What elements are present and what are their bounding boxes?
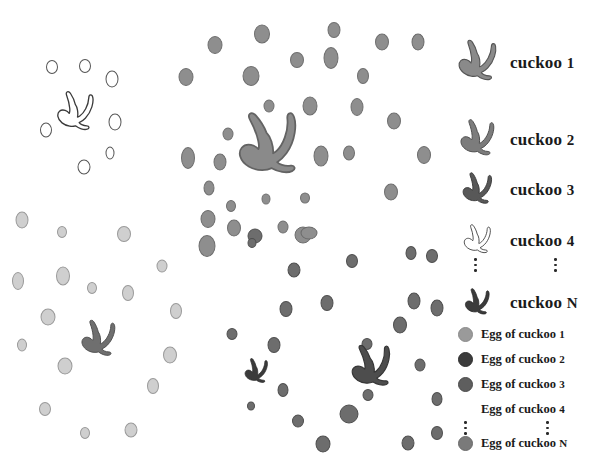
legend-row-egg-2: Egg of cuckoo 2 <box>446 352 611 367</box>
figure-canvas: cuckoo 1 cuckoo 2 cuckoo 3 cuckoo 4 <box>0 0 611 462</box>
legend-row-cuckoo-2: cuckoo 2 <box>446 119 611 160</box>
bird-icon <box>237 358 275 386</box>
egg-swatch-3 <box>458 377 473 392</box>
legend-bird-ellipsis-right <box>554 258 557 272</box>
legend-label-egg-2: Egg of cuckoo 2 <box>481 352 565 367</box>
bird-icon <box>70 320 126 361</box>
egg-marker <box>340 405 359 424</box>
egg-marker <box>278 383 289 397</box>
egg-marker <box>117 226 131 242</box>
egg-marker <box>106 147 115 160</box>
bird-icon <box>446 288 508 318</box>
legend-label-egg-1: Egg of cuckoo 1 <box>481 327 565 342</box>
egg-marker <box>431 426 443 440</box>
egg-marker <box>41 309 56 326</box>
egg-marker <box>248 238 257 248</box>
egg-marker <box>262 194 271 205</box>
egg-marker <box>431 300 444 317</box>
egg-marker <box>415 359 426 372</box>
egg-marker <box>201 210 216 228</box>
egg-swatch-1 <box>458 327 473 342</box>
egg-marker <box>57 226 67 238</box>
egg-marker <box>406 246 417 260</box>
legend-label-egg-4: Egg of cuckoo 4 <box>481 402 565 417</box>
legend-label-egg-n: Egg of cuckoo N <box>481 436 567 451</box>
egg-marker <box>199 235 216 257</box>
egg-marker <box>387 113 401 130</box>
egg-marker <box>375 34 389 51</box>
egg-marker <box>328 22 341 38</box>
egg-marker <box>393 317 407 334</box>
bird-icon <box>446 119 508 160</box>
egg-marker <box>426 249 438 263</box>
egg-marker <box>432 392 443 406</box>
legend-row-egg-4: Egg of cuckoo 4 <box>446 402 611 417</box>
egg-marker <box>39 402 51 416</box>
egg-marker <box>316 436 331 453</box>
egg-marker <box>12 272 24 290</box>
egg-marker <box>402 436 415 451</box>
egg-marker <box>268 337 281 353</box>
egg-marker <box>288 263 301 278</box>
egg-marker <box>324 47 339 69</box>
egg-marker <box>226 200 236 212</box>
egg-swatch-4 <box>458 402 473 417</box>
bird-icon <box>446 172 508 208</box>
egg-marker <box>343 146 355 161</box>
legend-row-cuckoo-1: cuckoo 1 <box>446 30 611 95</box>
egg-marker <box>357 68 369 84</box>
egg-marker <box>170 303 182 319</box>
egg-marker <box>80 427 90 439</box>
egg-marker <box>16 212 29 229</box>
egg-marker <box>163 347 177 364</box>
egg-marker <box>56 267 70 286</box>
egg-marker <box>408 293 421 310</box>
legend-row-cuckoo-4: cuckoo 4 <box>446 224 611 257</box>
egg-marker <box>46 60 58 74</box>
legend-row-cuckoo-3: cuckoo 3 <box>446 172 611 208</box>
legend-row-cuckoo-n: cuckoo N <box>446 288 611 318</box>
egg-marker <box>17 339 27 352</box>
egg-marker <box>106 71 119 88</box>
egg-marker <box>208 36 223 54</box>
egg-marker <box>351 98 364 116</box>
legend-label-cuckoo-3: cuckoo 3 <box>510 180 574 200</box>
egg-marker <box>227 220 241 237</box>
egg-marker <box>292 415 304 428</box>
egg-marker <box>412 34 425 51</box>
legend-label-egg-3: Egg of cuckoo 3 <box>481 377 565 392</box>
legend-label-cuckoo-4: cuckoo 4 <box>510 231 574 251</box>
legend-egg-ellipsis-right <box>546 421 549 435</box>
egg-marker <box>78 160 91 175</box>
egg-marker <box>254 25 270 44</box>
legend-panel: cuckoo 1 cuckoo 2 cuckoo 3 cuckoo 4 <box>446 0 611 462</box>
bird-icon <box>446 30 508 95</box>
egg-marker <box>301 227 318 240</box>
egg-marker <box>204 181 215 196</box>
egg-marker <box>125 423 138 438</box>
egg-marker <box>109 114 122 131</box>
legend-row-egg-3: Egg of cuckoo 3 <box>446 377 611 392</box>
egg-marker <box>346 254 358 268</box>
legend-egg-ellipsis-left <box>464 421 467 435</box>
bird-icon <box>336 340 407 396</box>
egg-marker <box>181 147 195 169</box>
egg-marker <box>300 193 310 204</box>
legend-row-egg-n: Egg of cuckoo N <box>446 436 611 451</box>
legend-label-cuckoo-n: cuckoo N <box>510 293 578 313</box>
egg-marker <box>79 59 91 73</box>
legend-bird-ellipsis-left <box>474 258 477 272</box>
scatter-field <box>0 0 446 462</box>
egg-marker <box>243 66 260 86</box>
egg-marker <box>290 52 304 68</box>
egg-marker <box>157 260 168 273</box>
egg-marker <box>247 402 255 411</box>
legend-row-egg-1: Egg of cuckoo 1 <box>446 327 611 342</box>
egg-marker <box>278 221 289 234</box>
egg-marker <box>384 184 398 201</box>
egg-marker <box>321 295 334 311</box>
egg-swatch-n <box>458 436 473 451</box>
bird-icon <box>213 103 322 190</box>
egg-marker <box>122 285 134 301</box>
egg-marker <box>417 146 431 164</box>
